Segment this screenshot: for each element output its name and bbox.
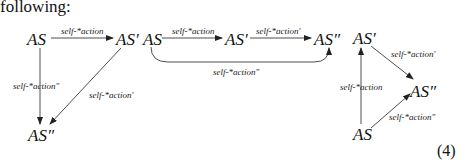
diagram-arrows (0, 0, 466, 163)
d1-arrow-asprime-to-asdprime (50, 48, 121, 124)
equation-number: (4) (437, 142, 456, 160)
d3-node-as-double-prime: AS″ (410, 83, 436, 100)
d3-label-action: self-*action (340, 83, 383, 92)
d2-label-action: self-*action (172, 27, 215, 36)
d1-label-action-prime: self-*action′ (89, 91, 133, 100)
d1-node-as-prime: AS′ (116, 31, 139, 48)
d3-node-as: AS (353, 126, 372, 143)
d2-node-as: AS (143, 31, 162, 48)
d1-node-as: AS (27, 31, 46, 48)
d1-node-as-double-prime: AS″ (28, 127, 54, 144)
d3-node-as-prime: AS′ (353, 30, 376, 47)
d1-label-action-dprime: self-*action″ (13, 82, 59, 91)
d2-node-as-double-prime: AS″ (314, 31, 340, 48)
d2-label-action-prime: self-*action′ (256, 27, 300, 36)
d3-label-action-prime: self-*action′ (391, 50, 435, 59)
d2-node-as-prime: AS′ (225, 31, 248, 48)
d3-label-action-dprime: self-*action″ (389, 113, 435, 122)
d1-label-action: self-*action (61, 27, 104, 36)
d3-arrow-as-to-asdprime (371, 94, 410, 128)
d2-arrow-as-to-asdprime-curved (151, 47, 329, 62)
d2-label-action-dprime: self-*action″ (213, 68, 259, 77)
